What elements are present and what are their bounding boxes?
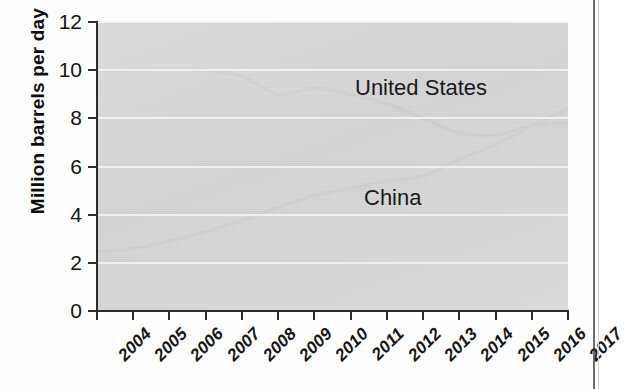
- x-tick-label-2004: 2004: [114, 324, 155, 365]
- gridline-10: [97, 69, 568, 71]
- x-axis-line: [96, 310, 569, 312]
- x-tick-2012: [386, 311, 388, 320]
- x-tick-label-2016: 2016: [549, 324, 590, 365]
- x-tick-label-2013: 2013: [440, 324, 481, 365]
- y-tick-8: [88, 117, 97, 119]
- plot-area: [97, 22, 568, 311]
- y-tick-label-6: 6: [44, 156, 82, 177]
- x-tick-label-2007: 2007: [223, 324, 264, 365]
- y-tick-label-4: 4: [44, 204, 82, 225]
- y-tick-label-2: 2: [44, 252, 82, 273]
- x-tick-label-2006: 2006: [187, 324, 228, 365]
- y-tick-label-0: 0: [44, 300, 82, 321]
- y-axis-title: Million barrels per day: [27, 0, 49, 241]
- x-tick-label-2017: 2017: [585, 324, 624, 365]
- y-tick-12: [88, 21, 97, 23]
- y-tick-2: [88, 262, 97, 264]
- x-tick-label-2010: 2010: [332, 324, 373, 365]
- y-tick-4: [88, 214, 97, 216]
- x-tick-2016: [531, 311, 533, 320]
- x-tick-label-2011: 2011: [368, 324, 409, 365]
- gridline-12: [97, 21, 568, 23]
- x-tick-2006: [168, 311, 170, 320]
- x-tick-label-2014: 2014: [477, 324, 518, 365]
- x-tick-2005: [132, 311, 134, 320]
- x-tick-2009: [277, 311, 279, 320]
- gridline-4: [97, 214, 568, 216]
- x-tick-2004: [96, 311, 98, 320]
- y-tick-label-12: 12: [44, 11, 82, 32]
- x-tick-2013: [422, 311, 424, 320]
- gridline-2: [97, 262, 568, 264]
- x-tick-2017: [567, 311, 569, 320]
- x-tick-2010: [313, 311, 315, 320]
- x-tick-label-2005: 2005: [151, 324, 192, 365]
- page-edge-rule: [593, 0, 595, 389]
- page-edge-rule-light: [598, 0, 599, 389]
- x-tick-label-2008: 2008: [259, 324, 300, 365]
- x-tick-2008: [241, 311, 243, 320]
- y-tick-10: [88, 69, 97, 71]
- gridline-6: [97, 166, 568, 168]
- x-tick-2014: [458, 311, 460, 320]
- x-tick-2011: [350, 311, 352, 320]
- x-tick-2015: [495, 311, 497, 320]
- x-tick-label-2015: 2015: [513, 324, 554, 365]
- series-label-china: China: [364, 185, 421, 211]
- series-label-united-states: United States: [355, 75, 487, 101]
- y-tick-label-10: 10: [44, 59, 82, 80]
- y-tick-6: [88, 166, 97, 168]
- x-tick-2007: [205, 311, 207, 320]
- x-tick-label-2009: 2009: [295, 324, 336, 365]
- y-tick-label-8: 8: [44, 107, 82, 128]
- gridline-8: [97, 117, 568, 119]
- x-tick-label-2012: 2012: [404, 324, 445, 365]
